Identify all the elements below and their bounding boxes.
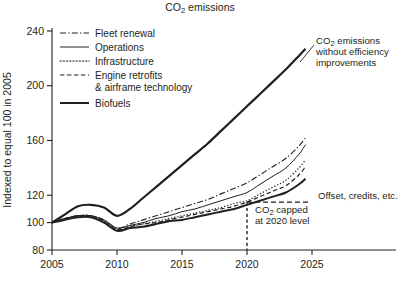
co2-capped-annotation: CO2 capped at 2020 level bbox=[255, 204, 309, 226]
y-tick-label: 160 bbox=[26, 134, 44, 146]
x-axis-ticks: 20052010201520202025 bbox=[40, 250, 324, 270]
co2-capped-line2: at 2020 level bbox=[255, 215, 309, 226]
offset-credits-label: Offset, credits, etc. bbox=[318, 190, 398, 201]
no-efficiency-line2: without efficiency bbox=[315, 46, 389, 57]
x-tick-label: 2005 bbox=[40, 258, 64, 270]
chart-legend: Fleet renewalOperationsInfrastructureEng… bbox=[60, 28, 192, 109]
y-tick-label: 200 bbox=[26, 79, 44, 91]
legend-item-fleet-renewal[interactable]: Fleet renewal bbox=[60, 28, 155, 39]
chart-title: CO2 emissions bbox=[165, 1, 235, 15]
series-no-efficiency-baseline-pattern bbox=[52, 49, 306, 223]
y-tick-label: 240 bbox=[26, 25, 44, 37]
y-tick-label: 80 bbox=[32, 244, 44, 256]
x-tick-label: 2015 bbox=[170, 258, 194, 270]
co2-emissions-line-chart: CO2 emissions Indexed to equal 100 in 20… bbox=[0, 0, 403, 283]
y-tick-label: 120 bbox=[26, 189, 44, 201]
series-no-efficiency-baseline bbox=[52, 49, 306, 223]
legend-label-engine-retrofits-line2: & airframe technology bbox=[95, 82, 192, 93]
legend-label-operations: Operations bbox=[95, 42, 144, 53]
no-efficiency-annotation: CO2 emissions without efficiency improve… bbox=[300, 35, 389, 68]
legend-item-engine-retrofits[interactable]: Engine retrofits& airframe technology bbox=[60, 70, 192, 93]
x-tick-label: 2010 bbox=[105, 258, 129, 270]
legend-item-operations[interactable]: Operations bbox=[60, 42, 144, 53]
legend-label-engine-retrofits: Engine retrofits bbox=[95, 70, 162, 81]
y-tick-label: 100 bbox=[26, 216, 44, 228]
legend-label-infrastructure: Infrastructure bbox=[95, 56, 154, 67]
legend-label-biofuels: Biofuels bbox=[95, 98, 131, 109]
no-efficiency-line3: improvements bbox=[316, 57, 376, 68]
legend-label-fleet-renewal: Fleet renewal bbox=[95, 28, 155, 39]
chart-container: CO2 emissions Indexed to equal 100 in 20… bbox=[0, 0, 403, 283]
legend-item-biofuels[interactable]: Biofuels bbox=[60, 98, 131, 109]
x-tick-label: 2025 bbox=[300, 258, 324, 270]
legend-item-infrastructure[interactable]: Infrastructure bbox=[60, 56, 154, 67]
y-axis-title: Indexed to equal 100 in 2005 bbox=[1, 72, 13, 208]
y-axis-ticks: 80100120160200240 bbox=[26, 25, 52, 256]
x-tick-label: 2020 bbox=[235, 258, 259, 270]
